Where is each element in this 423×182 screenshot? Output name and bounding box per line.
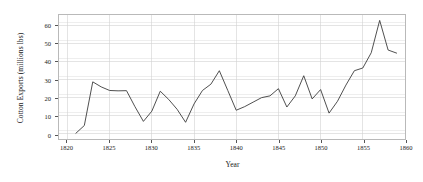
x-tick-label: 1855 [357, 144, 370, 151]
y-tick-label: 30 [45, 76, 52, 83]
x-tick-label: 1860 [400, 144, 413, 151]
x-tick-mark [406, 140, 407, 143]
x-tick-label: 1830 [145, 144, 158, 151]
x-tick-mark [321, 140, 322, 143]
x-tick-mark [279, 140, 280, 143]
y-tick-mark [55, 43, 58, 44]
x-tick-label: 1820 [60, 144, 73, 151]
x-tick-mark [364, 140, 365, 143]
y-tick-mark [55, 135, 58, 136]
x-tick-label: 1845 [272, 144, 285, 151]
y-tick-mark [55, 98, 58, 99]
gridlines [59, 15, 405, 139]
y-axis-title: Cotton Exports (millions lbs) [14, 8, 28, 148]
x-tick-mark [151, 140, 152, 143]
y-tick-label: 0 [48, 131, 51, 138]
x-tick-mark [66, 140, 67, 143]
x-tick-mark [236, 140, 237, 143]
chart-figure: Cotton Exports (millions lbs) Year 18201… [0, 0, 423, 182]
x-tick-mark [194, 140, 195, 143]
y-tick-label: 60 [45, 21, 52, 28]
plot-area [58, 14, 406, 140]
x-axis-title: Year [60, 160, 405, 169]
y-tick-mark [55, 61, 58, 62]
y-tick-mark [55, 80, 58, 81]
y-tick-label: 10 [45, 113, 52, 120]
y-tick-mark [55, 116, 58, 117]
y-tick-label: 50 [45, 40, 52, 47]
x-tick-label: 1850 [315, 144, 328, 151]
x-tick-mark [109, 140, 110, 143]
x-tick-label: 1835 [187, 144, 200, 151]
x-tick-label: 1825 [102, 144, 115, 151]
x-tick-label: 1840 [230, 144, 243, 151]
y-tick-label: 20 [45, 95, 52, 102]
plot-svg [59, 15, 405, 139]
y-tick-label: 40 [45, 58, 52, 65]
y-tick-mark [55, 25, 58, 26]
